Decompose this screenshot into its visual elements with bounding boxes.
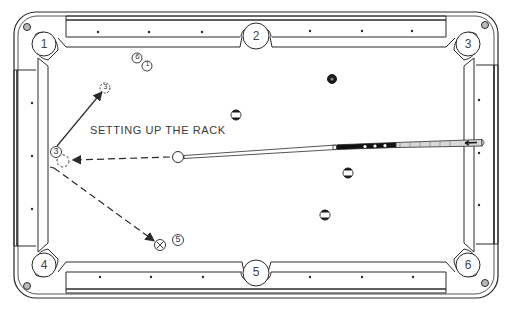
ball-8 [328,75,337,84]
cue-stick [184,140,484,159]
ball-11 [231,110,241,120]
corner-bolts [24,22,489,290]
diagram-caption: SETTING UP THE RACK [90,124,226,136]
bolt-icon [482,22,489,29]
markers [51,53,184,251]
marker-1-label: 1 [144,60,151,67]
pocket-3-label: 3 [458,37,478,51]
bolt-icon [482,280,489,287]
pool-table-svg [0,0,512,309]
pocket-6-label: 6 [458,258,478,272]
arrow-cue-to-spot [74,157,170,160]
arrow-to-spot-3 [57,93,101,146]
arrows [50,93,170,240]
cue-ball [173,152,184,163]
pocket-2-label: 2 [246,29,266,43]
marker-3-dashed-label: 3 [102,83,109,90]
bolt-icon [24,24,31,31]
marker-6-label: 6 [134,52,141,61]
pocket-1-label: 1 [34,37,54,51]
ball-10 [343,168,353,178]
arrow-to-x [54,168,153,240]
target-spot-dashed [57,155,69,167]
bolt-icon [24,283,31,290]
marker-5-label: 5 [174,234,182,244]
marker-3-label: 3 [52,146,60,156]
pocket-5-label: 5 [246,265,266,279]
ball-12 [320,210,330,220]
pocket-4-label: 4 [34,258,54,272]
table-frame [14,12,498,298]
